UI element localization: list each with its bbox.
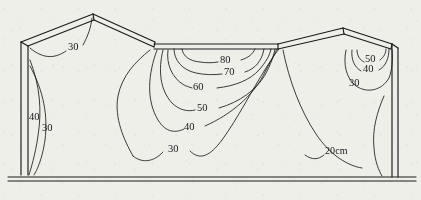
contour-label-30-right-eave: 30 [349, 78, 360, 89]
contour-label-40-core: 40 [184, 122, 195, 133]
roof-left-slope [21, 14, 94, 46]
left-wall [21, 42, 28, 175]
contour-30-floor-left [133, 152, 163, 161]
contour-label-30-apex: 30 [68, 42, 79, 53]
contour-label-60: 60 [193, 82, 204, 93]
contour-label-30-floor: 30 [168, 144, 179, 155]
contour-50-right-eave-left [357, 50, 364, 62]
contour-30-apex [30, 48, 66, 57]
contour-label-70: 70 [224, 67, 235, 78]
contour-label-40-left-wall: 40 [29, 112, 40, 123]
contour-label-30-left-wall: 30 [42, 123, 53, 134]
contour-diagram [0, 0, 421, 200]
contour-50-right-eave-right [380, 49, 386, 60]
contour-outer-right [283, 50, 362, 168]
contour-80-right [241, 49, 255, 60]
contour-70-right [245, 49, 264, 72]
building-envelope [8, 14, 416, 181]
roof-right-eave [343, 28, 392, 49]
flat-ceiling [154, 44, 278, 49]
roof-right-slope [93, 14, 155, 47]
roof-second-rise [278, 28, 344, 49]
contour-80-left [182, 49, 218, 63]
contour-label-40-right-eave: 40 [363, 64, 374, 75]
contour-label-80: 80 [220, 55, 231, 66]
contour-40-right-eave-left [352, 50, 361, 71]
contour-label-50: 50 [197, 103, 208, 114]
right-wall [392, 44, 398, 177]
floor-line [8, 177, 416, 181]
contour-outer-left [117, 50, 150, 156]
contour-right-wall-inner [374, 96, 384, 176]
contour-20cm-lead [305, 155, 324, 159]
contour-40-left [150, 50, 184, 131]
scale-label: 20cm [325, 146, 348, 156]
contour-60-left [168, 50, 192, 88]
figure-canvas: 30 40 30 80 70 60 50 40 30 50 40 30 20cm [0, 0, 421, 200]
